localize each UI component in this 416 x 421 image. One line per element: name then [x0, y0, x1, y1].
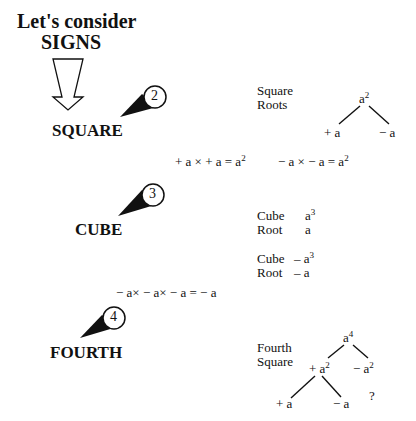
- cube-row-2-value: a: [305, 223, 311, 237]
- section-label-fourth: FOURTH: [50, 343, 122, 363]
- badge-2-icon: [120, 86, 166, 117]
- section-label-square: SQUARE: [52, 121, 123, 141]
- tree4-line-right: [353, 345, 368, 358]
- square-equation-negative: − a × − a = a2: [278, 154, 349, 170]
- cube-row-1-value: a3: [305, 209, 315, 223]
- cube-equation: − a× − a× − a = − a: [116, 285, 216, 301]
- cube-row-2-name: Root: [257, 223, 282, 237]
- tree-line-left: [339, 106, 360, 124]
- square-tree-right: − a: [379, 126, 395, 140]
- fourth-tree-unknown: ?: [369, 389, 375, 403]
- fourth-side-label-2: Square: [257, 355, 293, 369]
- cube-row-3-value: – a3: [294, 252, 314, 266]
- tree4-sub-right: [322, 376, 341, 397]
- tree4-sub-left: [291, 376, 315, 398]
- cube-row-3-name: Cube: [257, 252, 284, 266]
- tree-line-right: [369, 106, 389, 124]
- section-label-cube: CUBE: [75, 220, 122, 240]
- fourth-tree-mid-left: + a2: [309, 362, 330, 376]
- cube-row-4-value: – a: [294, 266, 310, 280]
- down-arrow-icon: [53, 59, 83, 110]
- badge-3-number: 3: [149, 186, 156, 202]
- badge-3-icon: [118, 184, 164, 216]
- badge-4-number: 4: [110, 309, 117, 325]
- square-side-label-2: Roots: [257, 98, 287, 112]
- fourth-tree-root: a4: [343, 331, 353, 345]
- badge-2-number: 2: [151, 88, 158, 104]
- fourth-tree-leaf-left: + a: [276, 397, 292, 411]
- cube-row-1-name: Cube: [257, 209, 284, 223]
- square-equation-positive: + a × + a = a2: [175, 154, 246, 170]
- fourth-side-label-1: Fourth: [257, 341, 292, 355]
- cube-row-4-name: Root: [257, 266, 282, 280]
- square-tree-left: + a: [324, 126, 340, 140]
- square-side-label-1: Square: [257, 84, 293, 98]
- square-tree-root: a2: [359, 92, 369, 106]
- badge-4-icon: [80, 307, 125, 338]
- fourth-tree-mid-right: − a2: [353, 362, 374, 376]
- tree4-line-left: [328, 345, 344, 358]
- fourth-tree-leaf-right: − a: [333, 397, 349, 411]
